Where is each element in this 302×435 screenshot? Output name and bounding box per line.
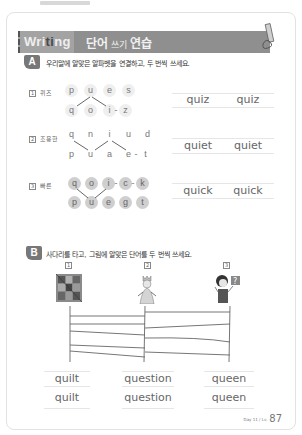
write-line — [222, 107, 274, 108]
letter[interactable]: t — [136, 196, 149, 209]
letter[interactable]: e — [103, 84, 116, 97]
answer-word: quick — [172, 184, 224, 197]
letter[interactable]: o — [85, 177, 98, 190]
letter[interactable]: q — [65, 128, 78, 141]
letter[interactable]: u — [84, 148, 97, 161]
letter[interactable]: p — [65, 84, 78, 97]
picture-2-num: 2 — [144, 262, 151, 269]
letter[interactable]: z — [119, 104, 132, 117]
answer-word: quick — [222, 184, 274, 197]
letter[interactable]: k — [136, 177, 149, 190]
letter[interactable]: o — [84, 104, 97, 117]
answer-word: quiz — [172, 93, 224, 106]
answer-word: question — [120, 372, 176, 385]
answer-word: queen — [204, 391, 254, 404]
queen-picture — [136, 274, 158, 304]
letter[interactable]: g — [119, 196, 132, 209]
picture-3-num: 3 — [223, 262, 230, 269]
write-line — [44, 386, 90, 387]
row-3-num: 3 — [29, 183, 36, 190]
writing-post: ng — [54, 34, 70, 49]
ko-b: 쓰기 — [108, 40, 130, 50]
letter[interactable]: u — [85, 196, 98, 209]
letter[interactable]: e — [102, 196, 115, 209]
section-b-instruction: 사다리를 타고, 그림에 알맞은 단어를 두 번씩 쓰세요. — [46, 249, 192, 259]
write-line — [204, 408, 254, 409]
letter[interactable]: u — [84, 84, 97, 97]
letter[interactable]: s — [122, 84, 135, 97]
banner-korean: 단어 쓰기 연습 — [86, 34, 152, 51]
letter[interactable]: d — [141, 128, 154, 141]
letter[interactable]: a — [103, 148, 116, 161]
section-a-instruction: 우리말에 알맞은 알파벳을 연결하고, 두 번씩 쓰세요. — [46, 58, 190, 68]
write-line — [172, 107, 224, 108]
letter[interactable]: p — [68, 196, 81, 209]
svg-text:?: ? — [233, 277, 237, 286]
top-strip — [0, 0, 302, 8]
ko-c: 연습 — [130, 37, 152, 51]
letter[interactable]: t — [139, 148, 152, 161]
writing-pre: Wri — [24, 34, 46, 49]
write-line — [222, 198, 274, 199]
footer-label: Day 11 / Lv. — [244, 417, 268, 422]
write-line — [172, 198, 224, 199]
write-line — [122, 386, 174, 387]
answer-word: quilt — [44, 372, 90, 385]
row-3-text: 빠른 — [40, 182, 52, 189]
row-1-label: 1퀴즈 — [29, 88, 52, 97]
answer-word: quiet — [172, 139, 224, 152]
letter[interactable]: q — [65, 104, 78, 117]
answer-word: quiet — [222, 139, 274, 152]
writing-hl: ti — [46, 34, 55, 49]
letter[interactable]: n — [84, 128, 97, 141]
write-line — [44, 408, 90, 409]
row-1-num: 1 — [29, 90, 36, 97]
letter[interactable]: p — [65, 148, 78, 161]
pencil-icon — [258, 22, 280, 54]
ko-a: 단어 — [86, 37, 108, 51]
title-banner: Writing 단어 쓰기 연습 — [18, 31, 270, 53]
letter[interactable]: u — [122, 128, 135, 141]
top-bar — [40, 1, 90, 5]
row-3-label: 3빠른 — [29, 181, 52, 190]
question-person-picture: ? — [212, 272, 242, 304]
answer-word: question — [120, 391, 176, 404]
write-line — [122, 408, 174, 409]
section-a-badge: A — [24, 55, 40, 69]
letter[interactable]: i — [103, 128, 116, 141]
page-footer: Day 11 / Lv.87 — [244, 413, 282, 424]
write-line — [222, 153, 274, 154]
banner-writing: Writing — [24, 34, 71, 49]
answer-word: quilt — [44, 391, 90, 404]
row-2-label: 2조용한 — [29, 134, 58, 143]
section-b-badge: B — [26, 246, 42, 260]
write-line — [204, 386, 254, 387]
row-1-text: 퀴즈 — [40, 89, 52, 96]
row-2-num: 2 — [29, 136, 36, 143]
worksheet-page — [6, 12, 296, 430]
quilt-picture — [56, 274, 82, 302]
answer-word: queen — [204, 372, 254, 385]
answer-word: quiz — [222, 93, 274, 106]
write-line — [172, 153, 224, 154]
page-number: 87 — [269, 413, 282, 424]
row-2-text: 조용한 — [40, 135, 58, 142]
letter[interactable]: q — [68, 177, 81, 190]
picture-1-num: 1 — [65, 262, 72, 269]
